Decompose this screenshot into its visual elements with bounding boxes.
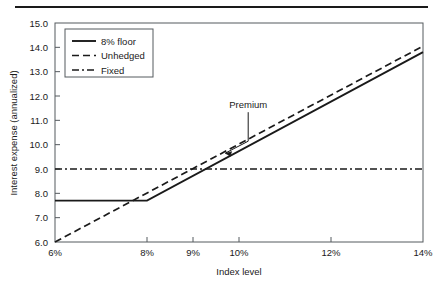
x-tick-label: 10% <box>229 247 249 258</box>
chart-plot-area: 6.07.08.09.010.011.012.013.014.015.0 6%8… <box>0 0 440 284</box>
legend-label: Unhedged <box>101 50 145 61</box>
chart-figure: 6.07.08.09.010.011.012.013.014.015.0 6%8… <box>0 0 440 284</box>
y-tick-label: 9.0 <box>35 164 48 175</box>
x-tick-label: 8% <box>140 247 154 258</box>
y-tick-label: 10.0 <box>30 139 49 150</box>
x-tick-label: 12% <box>321 247 341 258</box>
y-tick-label: 12.0 <box>30 91 49 102</box>
y-tick-label: 15.0 <box>30 18 49 29</box>
y-tick-label: 6.0 <box>35 237 48 248</box>
legend-label: Fixed <box>101 65 124 76</box>
y-tick-label: 14.0 <box>30 42 49 53</box>
y-tick-label: 7.0 <box>35 212 48 223</box>
x-axis-title: Index level <box>216 266 261 277</box>
y-tick-label: 11.0 <box>30 115 48 126</box>
y-axis-title: Interest expense (annualized) <box>8 70 19 195</box>
x-tick-label: 14% <box>413 247 433 258</box>
legend-label: 8% floor <box>101 36 136 47</box>
x-tick-label: 6% <box>48 247 62 258</box>
annotation-label-premium: Premium <box>229 99 267 110</box>
y-tick-label: 13.0 <box>30 66 49 77</box>
chart-legend: 8% floorUnhedgedFixed <box>65 29 153 77</box>
x-tick-label: 9% <box>186 247 200 258</box>
y-tick-label: 8.0 <box>35 188 48 199</box>
